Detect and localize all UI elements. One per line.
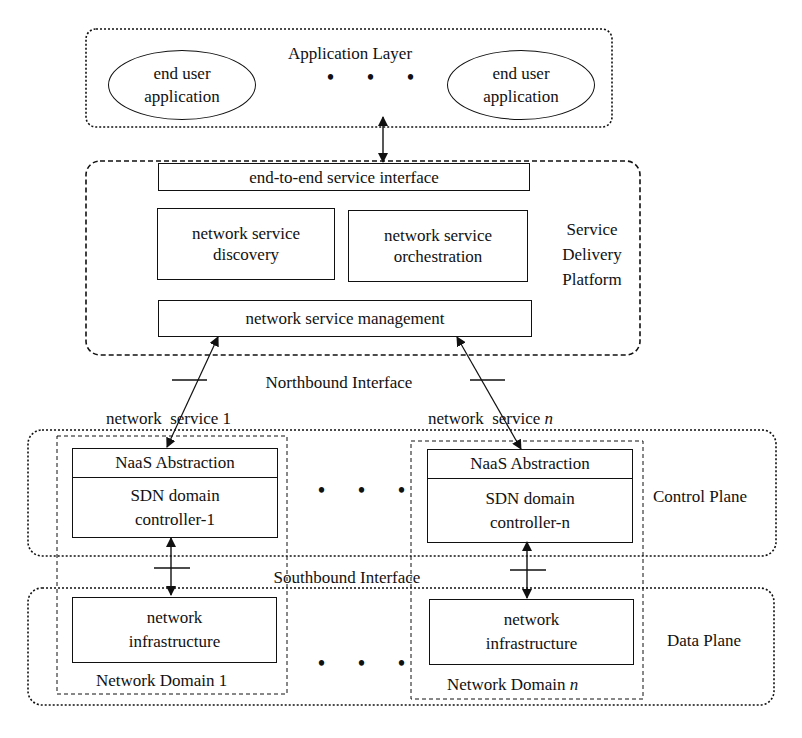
app-1-line1: end user (153, 62, 210, 85)
northbound-interface-label: Northbound Interface (244, 372, 434, 393)
control-plane-title: Control Plane (640, 486, 760, 507)
controller-1-line1: SDN domain (130, 484, 219, 508)
end-user-application-1: end user application (108, 50, 256, 120)
network-service-1-label: network service 1 (106, 408, 231, 429)
network-service-n-label: network service n (428, 408, 553, 429)
network-domain-1-label: Network Domain 1 (96, 670, 227, 691)
sdn-controller-1: NaaS Abstraction SDN domain controller-1 (72, 448, 278, 538)
data-plane-ellipsis: • • • (318, 652, 419, 675)
controller-n-line1: SDN domain (485, 487, 574, 511)
end-to-end-service-interface: end-to-end service interface (158, 163, 530, 191)
app-1-line2: application (144, 85, 220, 108)
naas-abstraction-n: NaaS Abstraction (428, 450, 632, 479)
naas-abstraction-1: NaaS Abstraction (73, 449, 277, 478)
northbound-arrow-n (457, 337, 521, 449)
application-layer-title: Application Layer (258, 43, 442, 64)
network-infrastructure-n: network infrastructure (429, 599, 634, 665)
network-service-orchestration: network service orchestration (348, 210, 528, 282)
data-plane-title: Data Plane (654, 630, 754, 651)
network-infrastructure-1: network infrastructure (72, 597, 277, 663)
controller-n-line2: controller-n (490, 511, 570, 535)
southbound-interface-label: Southbound Interface (252, 567, 442, 588)
service-delivery-platform-title: Service Delivery Platform (552, 217, 632, 292)
sdn-naas-architecture-diagram: Application Layer end user application e… (0, 0, 802, 738)
sdn-controller-n: NaaS Abstraction SDN domain controller-n (427, 449, 633, 543)
app-2-line1: end user (492, 62, 549, 85)
control-plane-ellipsis: • • • (318, 479, 419, 502)
app-2-line2: application (483, 85, 559, 108)
network-service-management: network service management (158, 300, 532, 337)
network-service-discovery: network service discovery (157, 208, 335, 280)
end-user-application-2: end user application (447, 50, 595, 120)
controller-1-line2: controller-1 (135, 508, 215, 532)
network-domain-n-label: Network Domain n (447, 674, 578, 695)
application-ellipsis: • • • (327, 66, 428, 89)
